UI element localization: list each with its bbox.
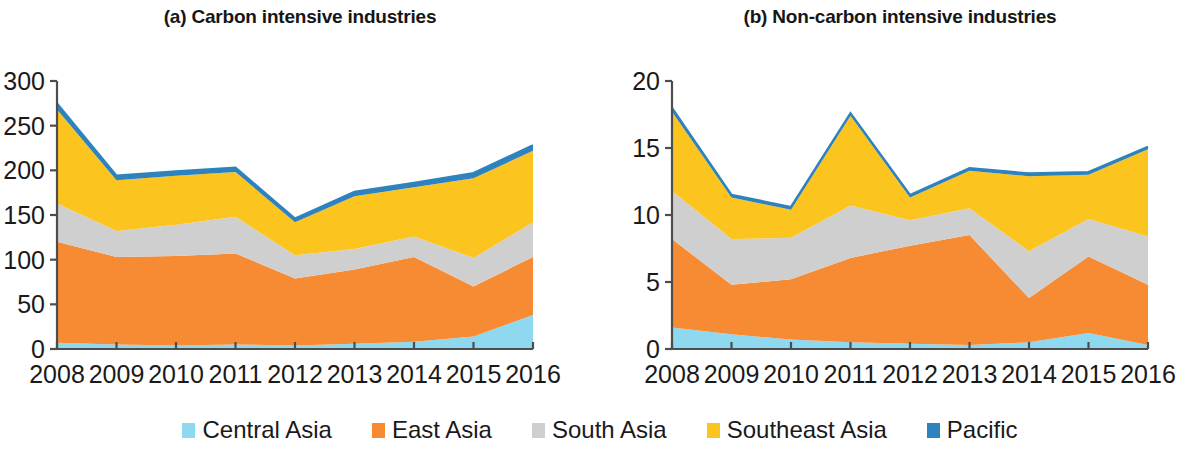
legend-swatch-icon [927, 423, 940, 438]
y-tick-label: 20 [632, 67, 660, 95]
figure-root: (a) Carbon intensive industries 05010015… [0, 0, 1200, 460]
y-tick-label: 5 [646, 268, 660, 296]
legend-item: Pacific [927, 418, 1018, 442]
x-tick-label: 2015 [446, 360, 502, 388]
y-tick-label: 300 [3, 67, 45, 95]
x-tick-label: 2008 [29, 360, 85, 388]
y-tick-label: 15 [632, 134, 660, 162]
panels-container: (a) Carbon intensive industries 05010015… [0, 0, 1200, 400]
legend-item: East Asia [372, 418, 492, 442]
x-tick-label: 2008 [644, 360, 700, 388]
legend-item: South Asia [532, 418, 667, 442]
x-tick-label: 2016 [1120, 360, 1176, 388]
legend-label: Central Asia [202, 418, 331, 442]
legend-label: East Asia [392, 418, 492, 442]
legend-item: Southeast Asia [707, 418, 887, 442]
x-tick-label: 2014 [386, 360, 442, 388]
y-tick-label: 0 [646, 335, 660, 363]
y-tick-label: 100 [3, 246, 45, 274]
y-tick-label: 50 [17, 290, 45, 318]
y-tick-label: 150 [3, 201, 45, 229]
legend-swatch-icon [182, 423, 195, 438]
legend-label: South Asia [552, 418, 667, 442]
x-tick-label: 2012 [267, 360, 323, 388]
x-tick-label: 2009 [89, 360, 145, 388]
x-tick-label: 2010 [148, 360, 204, 388]
panel-b-plot: 0510152020082009201020112012201320142015… [600, 0, 1200, 400]
x-tick-label: 2016 [505, 360, 561, 388]
x-tick-label: 2015 [1061, 360, 1117, 388]
y-tick-label: 250 [3, 112, 45, 140]
stacked-area-chart-b: 0510152020082009201020112012201320142015… [600, 0, 1200, 400]
y-tick-label: 0 [31, 335, 45, 363]
legend-swatch-icon [532, 423, 545, 438]
x-tick-label: 2011 [824, 360, 878, 388]
x-tick-label: 2014 [1001, 360, 1057, 388]
panel-a-plot: 0501001502002503002008200920102011201220… [0, 0, 600, 400]
x-tick-label: 2012 [882, 360, 938, 388]
stacked-area-chart-a: 0501001502002503002008200920102011201220… [0, 0, 600, 400]
x-tick-label: 2013 [942, 360, 998, 388]
chart-legend: Central AsiaEast AsiaSouth AsiaSoutheast… [0, 400, 1200, 460]
x-tick-label: 2009 [704, 360, 760, 388]
legend-label: Southeast Asia [727, 418, 887, 442]
legend-item: Central Asia [182, 418, 331, 442]
legend-swatch-icon [372, 423, 385, 438]
x-tick-label: 2010 [763, 360, 819, 388]
legend-swatch-icon [707, 423, 720, 438]
y-tick-label: 200 [3, 156, 45, 184]
x-tick-label: 2011 [209, 360, 263, 388]
legend-label: Pacific [947, 418, 1018, 442]
panel-a: (a) Carbon intensive industries 05010015… [0, 0, 600, 400]
x-tick-label: 2013 [327, 360, 383, 388]
y-tick-label: 10 [632, 201, 660, 229]
panel-b: (b) Non-carbon intensive industries 0510… [600, 0, 1200, 400]
